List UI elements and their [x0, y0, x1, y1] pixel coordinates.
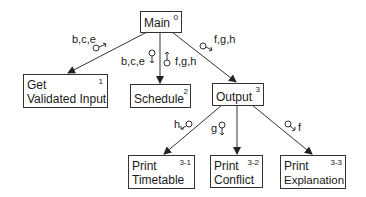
- data-couple-icon: [285, 121, 295, 131]
- data-couple-icon: [181, 121, 192, 129]
- couple-label-main-schedule: b,c,e: [121, 55, 145, 67]
- module-name: Main: [144, 16, 170, 30]
- data-couple-icon: [219, 122, 225, 135]
- module-name-line2: Conflict: [214, 173, 254, 187]
- module-get-validated-input[interactable]: Get Validated Input 1: [23, 74, 108, 108]
- module-print-explanation[interactable]: Print Explanation 3-3: [280, 155, 346, 189]
- module-number: 3: [256, 86, 260, 94]
- couple-label-output-explanation: f: [298, 121, 301, 133]
- data-couple-icon: [149, 50, 155, 63]
- module-name: Output: [216, 90, 252, 104]
- data-couple-icon: [164, 52, 170, 66]
- couple-label-schedule-main: f,g,h: [175, 55, 196, 67]
- module-number: 0: [174, 14, 178, 22]
- module-name-line1: Print: [214, 159, 239, 173]
- module-name-line2: Validated Input: [27, 92, 106, 106]
- couple-label-main-output: f,g,h: [214, 33, 235, 45]
- module-output[interactable]: Output 3: [212, 83, 264, 106]
- module-main[interactable]: Main 0: [140, 11, 182, 33]
- couple-label-output-timetable: h: [174, 118, 180, 130]
- module-print-conflict[interactable]: Print Conflict 3-2: [210, 155, 263, 188]
- module-schedule[interactable]: Schedule 2: [130, 84, 191, 108]
- module-number: 3-2: [247, 159, 259, 167]
- module-print-timetable[interactable]: Print Timetable 3-1: [128, 155, 195, 189]
- module-number: 2: [184, 88, 188, 96]
- couple-label-main-input: b,c,e: [72, 33, 96, 45]
- connector-output-explanation: [252, 105, 312, 154]
- data-couple-icon: [200, 43, 212, 51]
- module-name: Schedule: [134, 92, 184, 106]
- module-name-line1: Get: [27, 78, 46, 92]
- module-name-line1: Print: [132, 159, 157, 173]
- module-name-line1: Print: [284, 159, 309, 173]
- module-name-line2: Explanation: [284, 173, 344, 187]
- couple-label-output-conflict: g: [211, 122, 217, 134]
- module-number: 3-3: [330, 159, 342, 167]
- module-number: 1: [99, 78, 103, 86]
- module-name-line2: Timetable: [132, 173, 184, 187]
- module-number: 3-1: [179, 159, 191, 167]
